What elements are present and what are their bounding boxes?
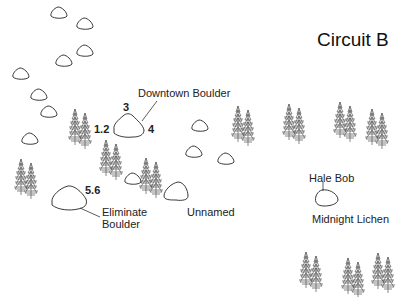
eliminate-grade: 5.6	[85, 184, 100, 196]
rock-icon	[22, 133, 38, 144]
tree-icon	[365, 109, 389, 149]
tree-icon	[341, 258, 365, 297]
downtown-grade-right: 4	[148, 123, 154, 135]
rock-icon	[77, 18, 93, 29]
rock-icon	[13, 68, 29, 79]
tree-icon	[68, 109, 92, 149]
tree-icon	[99, 140, 123, 180]
eliminate-label-line1: Eliminate	[102, 206, 147, 218]
unnamed-label: Unnamed	[187, 206, 235, 218]
rock-icon	[77, 45, 93, 56]
rock-icon	[56, 55, 72, 66]
rock-icon	[51, 7, 67, 18]
tree-icon	[333, 102, 357, 142]
tree-icon	[231, 106, 255, 146]
eliminate-leader-line	[80, 208, 100, 217]
midnight-lichen-label: Midnight Lichen	[312, 213, 389, 225]
unnamed-boulder[interactable]	[164, 182, 188, 200]
rock-icon	[125, 173, 141, 184]
eliminate-boulder[interactable]	[52, 186, 87, 210]
circuit-title: Circuit B	[317, 29, 389, 51]
tree-icon	[14, 159, 38, 199]
hale-bob-boulder[interactable]	[315, 190, 338, 206]
downtown-boulder-label: Downtown Boulder	[138, 87, 230, 99]
hale-bob-label: Hale Bob	[309, 172, 354, 184]
rock-icon	[186, 146, 202, 157]
downtown-boulder[interactable]	[114, 114, 144, 138]
rock-icon	[192, 120, 208, 131]
eliminate-label-line2: Boulder	[102, 218, 140, 230]
downtown-grade-top: 3	[123, 101, 129, 113]
tree-icon	[139, 158, 163, 198]
rock-icon	[41, 106, 57, 117]
downtown-leader-line	[142, 101, 157, 121]
circuit-map: Circuit B Downtown Boulder 3 1.2 4 5.6 E…	[0, 0, 406, 297]
rock-icon	[218, 153, 234, 164]
downtown-grade-left: 1.2	[94, 123, 109, 135]
rock-icon	[31, 89, 47, 100]
tree-icon	[282, 104, 306, 144]
tree-icon	[371, 253, 395, 293]
tree-icon	[299, 252, 323, 292]
